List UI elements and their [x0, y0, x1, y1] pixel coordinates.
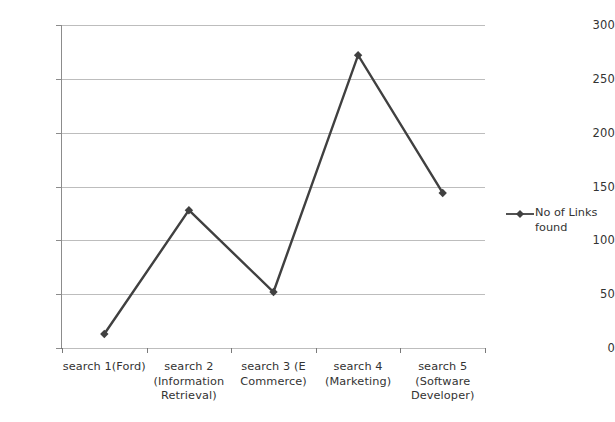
y-tick-label-100: 100: [569, 233, 615, 247]
x-axis-label-line: search 3 (E: [231, 360, 316, 375]
x-tick-mark-1: [147, 348, 148, 353]
x-axis-label-line: Retrieval): [147, 389, 232, 404]
x-axis-label-2: search 2(InformationRetrieval): [147, 360, 232, 404]
x-tick-mark-3: [316, 348, 317, 353]
y-tick-label-0: 0: [569, 341, 615, 355]
x-axis-label-line: (Marketing): [316, 375, 401, 390]
legend-label-line-1: No of Links: [535, 206, 597, 221]
plot-area: [62, 25, 485, 348]
y-tick-label-250: 250: [569, 72, 615, 86]
x-axis-label-1: search 1(Ford): [62, 360, 147, 375]
x-axis-label-line: (Software: [400, 375, 485, 390]
x-tick-mark-4: [400, 348, 401, 353]
line-chart: 050100150200250300 search 1(Ford)search …: [0, 0, 615, 422]
x-axis-label-line: search 5: [400, 360, 485, 375]
x-tick-mark-5: [485, 348, 486, 353]
legend-marker-icon: [506, 207, 534, 221]
legend-label: No of Links found: [534, 206, 597, 235]
x-axis-label-line: search 2: [147, 360, 232, 375]
x-axis-label-3: search 3 (ECommerce): [231, 360, 316, 389]
series-no-of-links-found: [62, 25, 485, 348]
legend-label-line-2: found: [535, 221, 597, 236]
chart-legend: No of Links found: [506, 206, 612, 235]
x-tick-mark-0: [62, 348, 63, 353]
x-axis-label-line: search 1(Ford): [62, 360, 147, 375]
x-axis-labels: search 1(Ford)search 2(InformationRetrie…: [62, 360, 485, 420]
x-axis-label-5: search 5(SoftwareDeveloper): [400, 360, 485, 404]
x-tick-mark-2: [231, 348, 232, 353]
y-tick-label-300: 300: [569, 18, 615, 32]
x-axis-label-4: search 4(Marketing): [316, 360, 401, 389]
y-tick-label-50: 50: [569, 287, 615, 301]
x-axis-label-line: (Information: [147, 375, 232, 390]
y-tick-label-150: 150: [569, 180, 615, 194]
y-tick-label-200: 200: [569, 126, 615, 140]
x-axis-label-line: Developer): [400, 389, 485, 404]
x-axis-label-line: Commerce): [231, 375, 316, 390]
gridline-0: [62, 348, 485, 349]
x-axis-label-line: search 4: [316, 360, 401, 375]
